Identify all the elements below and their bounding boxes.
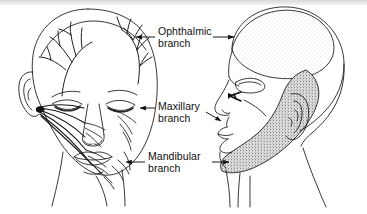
maxillary-label-line1: Maxillary [158, 100, 200, 112]
face-outline [32, 9, 157, 175]
ophthalmic-nerve-branches [39, 22, 92, 96]
upper-lip-profile [218, 127, 228, 139]
ophthalmic-branch-label: Ophthalmicbranch [158, 26, 212, 49]
ophthalmic-label-line2: branch [158, 37, 190, 49]
anterior-face-view [19, 9, 157, 206]
neck-right [122, 170, 125, 206]
ophthalmic-label-line1: Ophthalmic [158, 25, 212, 37]
maxillary-label-line2: branch [158, 112, 190, 124]
anatomical-figure: Ophthalmicbranch Maxillarybranch Mandibu… [0, 0, 367, 214]
nerve-exit-dot [228, 93, 233, 99]
mandibular-label-line1: Mandibular [148, 150, 200, 162]
neck-back-profile [303, 148, 326, 207]
nose-bridge-left [83, 104, 88, 136]
throat-line [238, 173, 240, 207]
facial-nerve-fan [40, 105, 101, 173]
ophthalmic-nerve-branches-right [117, 17, 152, 84]
mandibular-branch-label: Mandibularbranch [148, 151, 200, 174]
jaw-neck-profile [226, 170, 230, 207]
neck-left [52, 152, 63, 206]
nostril-profile [222, 110, 230, 113]
lower-lip-profile [220, 139, 232, 153]
nose-tip [82, 135, 104, 146]
mandibular-label-line2: branch [148, 162, 180, 174]
lateral-head-view [215, 7, 344, 207]
eyebrow-left [52, 91, 80, 97]
eye-right [106, 100, 135, 111]
hairline [41, 21, 146, 56]
maxillary-nerve-branches [85, 110, 136, 150]
cheek-contour [244, 100, 266, 116]
maxillary-leader-right [206, 112, 221, 121]
maxillary-branch-label: Maxillarybranch [158, 101, 200, 124]
forehead-profile [229, 52, 232, 77]
profile-eye-lid [239, 82, 261, 85]
nose-bridge-right [99, 104, 104, 135]
ophthalmic-zone-shape [232, 10, 334, 78]
philtrum [227, 117, 229, 127]
lip-line-profile [218, 134, 233, 136]
nerve-exit-marks [230, 92, 241, 101]
chin-shadow [96, 176, 107, 206]
left-ear-inner2 [28, 88, 31, 100]
profile-eye-outline [235, 78, 264, 93]
eyebrow-right [108, 90, 137, 95]
